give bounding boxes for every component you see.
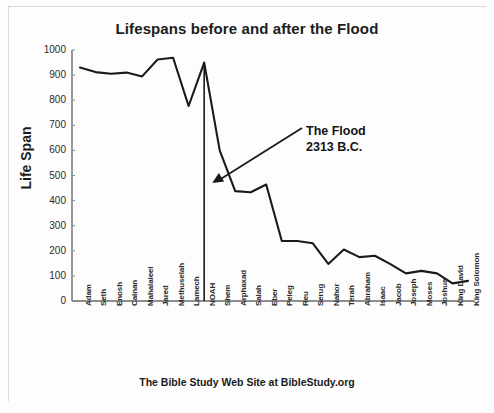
- x-tick-label: Reu: [301, 291, 310, 306]
- x-tick-label: Adam: [84, 284, 93, 306]
- x-tick-label: Enosh: [115, 282, 124, 306]
- x-tick-label: Moses: [425, 282, 434, 306]
- x-tick-label: Isaac: [378, 286, 387, 306]
- x-tick-label: Jared: [161, 285, 170, 306]
- x-tick-label: Methuselah: [177, 263, 186, 306]
- x-tick-label: Nahor: [332, 283, 341, 306]
- x-tick-label: Salah: [254, 285, 263, 306]
- source-caption: The Bible Study Web Site at BibleStudy.o…: [0, 376, 494, 388]
- x-tick-label: Lamech: [192, 276, 201, 306]
- x-axis-labels: AdamSethEnoshCainanMahalaleelJaredMethus…: [0, 0, 494, 413]
- x-tick-label: Mahalaleel: [146, 267, 155, 306]
- x-tick-label: Abraham: [363, 272, 372, 306]
- x-tick-label: King David: [456, 265, 465, 306]
- x-tick-label: Peleg: [285, 285, 294, 306]
- x-tick-label: NOAH: [208, 283, 217, 306]
- x-tick-label: Serug: [316, 284, 325, 306]
- x-tick-label: Cainan: [130, 280, 139, 306]
- plot-area: Life Span 100090080070060050040030020010…: [0, 0, 494, 413]
- x-tick-label: Arphaxad: [239, 270, 248, 306]
- chart-figure: Lifespans before and after the Flood Lif…: [0, 0, 494, 413]
- x-tick-label: Joseph: [409, 279, 418, 306]
- x-tick-label: King Solomon: [472, 253, 481, 306]
- x-tick-label: Joshua: [440, 279, 449, 306]
- x-tick-label: Jacob: [394, 283, 403, 306]
- x-tick-label: Seth: [99, 289, 108, 306]
- x-tick-label: Terah: [347, 285, 356, 306]
- x-tick-label: Eber: [270, 289, 279, 306]
- x-tick-label: Shem: [223, 285, 232, 306]
